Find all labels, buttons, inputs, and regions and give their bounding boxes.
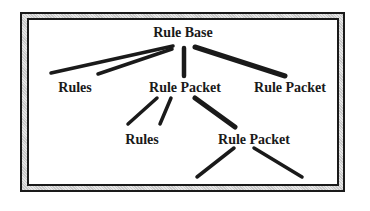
edge-root-packet-right [195, 47, 285, 76]
node-rules-left: Rules [58, 80, 91, 96]
node-rule-base: Rule Base [153, 25, 213, 41]
node-rules-lower: Rules [125, 132, 158, 148]
edge-subpacket-right [254, 148, 302, 177]
edge-subpacket-left [197, 148, 234, 177]
node-rule-packet-lower: Rule Packet [218, 132, 290, 148]
edge-packet-rules-b [160, 98, 171, 124]
edge-packet-subpacket [195, 98, 235, 127]
node-rule-packet-center: Rule Packet [149, 80, 221, 96]
edge-packet-rules-a [128, 98, 157, 124]
node-rule-packet-right: Rule Packet [254, 80, 326, 96]
